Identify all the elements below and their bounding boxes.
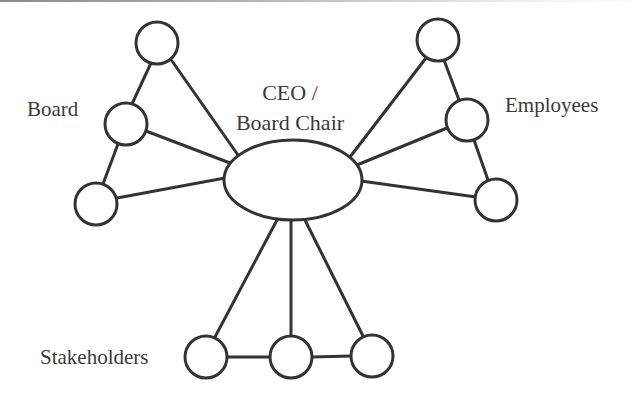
- edge-board-bottom-to-center: [117, 178, 225, 198]
- edge-employees-bottom-to-center: [361, 181, 476, 197]
- employees-node-bottom: [475, 179, 517, 221]
- stakeholders-node-right: [351, 335, 393, 377]
- edge-board-mid-to-center: [146, 131, 230, 163]
- board-node-top: [136, 22, 178, 64]
- board-node-bottom: [75, 183, 117, 225]
- edge-board-top-to-mid: [132, 63, 151, 104]
- employees-node-middle: [446, 99, 488, 141]
- center-label-line2: Board Chair: [220, 108, 360, 138]
- stakeholders-node-middle: [270, 336, 312, 378]
- group-label-board: Board: [27, 99, 78, 120]
- center-node-ellipse: [224, 140, 362, 220]
- board-node-middle: [105, 103, 147, 145]
- edge-stakeholders-right-to-center: [305, 220, 363, 336]
- edge-stakeholders-left-to-center: [215, 220, 277, 337]
- diagram-graphic: [0, 0, 643, 402]
- edge-employees-top-to-mid: [444, 60, 459, 100]
- edge-stakeholders-mid-to-right: [312, 356, 351, 357]
- org-network-diagram: CEO / Board Chair Board Employees Stakeh…: [0, 0, 643, 402]
- edge-employees-mid-to-center: [357, 128, 447, 165]
- group-label-stakeholders: Stakeholders: [40, 347, 148, 368]
- edge-employees-mid-to-bottom: [474, 140, 488, 180]
- edge-board-mid-to-bottom: [103, 144, 118, 184]
- center-label-line1: CEO /: [220, 78, 360, 108]
- employees-node-top: [417, 19, 459, 61]
- stakeholders-node-left: [185, 336, 227, 378]
- center-label: CEO / Board Chair: [220, 78, 360, 138]
- group-label-employees: Employees: [505, 95, 598, 116]
